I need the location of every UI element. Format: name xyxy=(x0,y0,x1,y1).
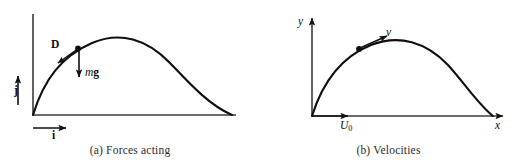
caption-panel-a: (a) Forces acting xyxy=(0,144,260,156)
drag-force-label: D xyxy=(51,39,59,51)
panel-forces-acting: D mg j i (a) Forces acting xyxy=(0,0,260,160)
weight-gravity-symbol: g xyxy=(93,66,99,78)
i-unit-vector-label: i xyxy=(52,130,55,142)
trajectory-curve-b xyxy=(312,40,493,116)
drag-force-arrow xyxy=(58,48,79,63)
initial-velocity-label: U0 xyxy=(340,120,352,134)
panel-velocities: y x U0 v (b) Velocities xyxy=(260,0,517,160)
x-axis-label: x xyxy=(495,120,500,132)
y-axis-label: y xyxy=(298,16,303,28)
instantaneous-velocity-label: v xyxy=(386,27,391,39)
panel-a-canvas xyxy=(0,0,260,160)
caption-panel-b: (b) Velocities xyxy=(260,144,517,156)
weight-force-label: mg xyxy=(85,67,99,79)
initial-velocity-subscript: 0 xyxy=(348,124,352,133)
j-unit-vector-label: j xyxy=(14,85,18,97)
trajectory-curve-a xyxy=(33,37,232,115)
projectile-motion-figure: D mg j i (a) Forces acting xyxy=(0,0,517,160)
